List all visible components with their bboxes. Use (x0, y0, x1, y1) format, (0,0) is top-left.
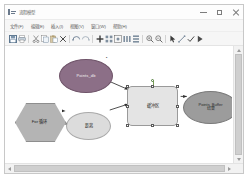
node-buffer-label: 缓冲区 (128, 104, 177, 109)
scroll-right-button[interactable] (225, 165, 234, 173)
distribute-v-button[interactable] (131, 33, 140, 44)
node-points-db[interactable]: Points_db (59, 59, 113, 93)
redo-button[interactable] (81, 33, 90, 44)
cut-button[interactable] (31, 33, 40, 44)
app-window: 流程模型 文件(F) 编辑(E) 插入(I) 视图(V) 窗口(W) 帮助(H) (4, 4, 244, 174)
node-points-buffer-label: Points_Buffer 结果 (184, 103, 233, 112)
flowchart-app-icon (8, 8, 16, 16)
diagram-canvas[interactable]: ▪ For 循环 Points_db 距离 缓冲区 (5, 46, 233, 163)
toolbar-separator-5 (165, 35, 166, 43)
delete-icon (59, 35, 67, 43)
align-grid-icon (105, 35, 113, 43)
close-icon (232, 9, 239, 16)
canvas-marker: ▪ (106, 55, 107, 60)
toolbar-separator-2 (69, 35, 70, 43)
distribute-h-button[interactable] (122, 33, 131, 44)
chevron-up-icon (237, 49, 241, 52)
node-distance-label: 距离 (67, 124, 110, 129)
run-icon (196, 35, 204, 43)
pointer-button[interactable] (168, 33, 177, 44)
undo-button[interactable] (72, 33, 81, 44)
add-node-button[interactable] (95, 33, 104, 44)
zoom-in-button[interactable] (145, 33, 154, 44)
resize-handle-bottom-right[interactable] (176, 124, 179, 127)
node-points-db-label: Points_db (60, 74, 112, 79)
connector-icon (178, 35, 186, 43)
minimize-icon (200, 9, 207, 16)
canvas-row: ▪ For 循环 Points_db 距离 缓冲区 (5, 46, 243, 163)
distribute-v-icon (132, 35, 140, 43)
resize-handle-middle-left[interactable] (126, 105, 129, 108)
minimize-button[interactable] (195, 5, 211, 19)
save-icon (9, 35, 17, 43)
node-points-buffer[interactable]: Points_Buffer 结果 (183, 91, 233, 124)
window-controls (195, 5, 243, 19)
menu-help[interactable]: 帮助(H) (112, 23, 128, 29)
menu-bar: 文件(F) 编辑(E) 插入(I) 视图(V) 窗口(W) 帮助(H) (5, 20, 243, 32)
menu-window[interactable]: 窗口(W) (90, 23, 107, 29)
save-button[interactable] (8, 33, 17, 44)
zoom-in-icon (146, 35, 154, 43)
print-button[interactable] (17, 33, 26, 44)
resize-handle-top-left[interactable] (126, 85, 129, 88)
menu-edit[interactable]: 编辑(E) (30, 23, 46, 29)
resize-handle-top-center[interactable] (151, 85, 154, 88)
validate-button[interactable] (186, 33, 195, 44)
menu-insert[interactable]: 插入(I) (50, 23, 64, 29)
vertical-scroll-thumb[interactable] (235, 54, 242, 155)
distribute-h-icon (123, 35, 131, 43)
scroll-down-button[interactable] (234, 155, 243, 163)
redo-icon (81, 35, 90, 43)
align-grid-button[interactable] (104, 33, 113, 44)
zoom-out-icon (155, 35, 163, 43)
undo-icon (72, 35, 81, 43)
menu-view[interactable]: 视图(V) (69, 23, 85, 29)
hexagon-shape (15, 103, 66, 142)
chevron-down-icon (237, 158, 241, 161)
resize-handle-middle-right[interactable] (176, 105, 179, 108)
zoom-out-button[interactable] (154, 33, 163, 44)
rotate-handle[interactable] (151, 79, 154, 82)
pointer-icon (169, 35, 177, 43)
layout-icon (114, 35, 122, 43)
cut-icon (32, 35, 40, 43)
paste-icon (50, 35, 58, 43)
horizontal-scroll-thumb[interactable] (14, 165, 225, 172)
scrollbar-corner (234, 164, 243, 173)
layout-button[interactable] (113, 33, 122, 44)
toolbar (5, 32, 243, 46)
paste-button[interactable] (49, 33, 58, 44)
close-button[interactable] (227, 5, 243, 19)
print-icon (18, 35, 26, 43)
horizontal-scrollbar[interactable] (5, 163, 243, 173)
resize-handle-bottom-left[interactable] (126, 124, 129, 127)
title-bar[interactable]: 流程模型 (5, 5, 243, 20)
scroll-up-button[interactable] (234, 46, 243, 54)
copy-button[interactable] (40, 33, 49, 44)
node-for-loop[interactable]: For 循环 (15, 103, 64, 140)
scroll-left-button[interactable] (5, 165, 14, 173)
toolbar-separator-4 (142, 35, 143, 43)
maximize-icon (216, 9, 223, 16)
document-area: ▪ For 循环 Points_db 距离 缓冲区 (5, 46, 243, 173)
maximize-button[interactable] (211, 5, 227, 19)
resize-handle-bottom-center[interactable] (151, 124, 154, 127)
chevron-right-icon (228, 167, 231, 171)
window-title: 流程模型 (19, 9, 35, 15)
menu-file[interactable]: 文件(F) (9, 23, 25, 29)
node-buffer[interactable]: 缓冲区 (127, 86, 178, 126)
toolbar-separator-3 (92, 35, 93, 43)
delete-button[interactable] (58, 33, 67, 44)
run-button[interactable] (195, 33, 204, 44)
copy-icon (41, 35, 49, 43)
vertical-scrollbar[interactable] (233, 46, 243, 163)
connector-button[interactable] (177, 33, 186, 44)
resize-handle-top-right[interactable] (176, 85, 179, 88)
toolbar-separator-1 (28, 35, 29, 43)
chevron-left-icon (8, 167, 11, 171)
add-node-icon (96, 35, 104, 43)
node-distance[interactable]: 距离 (66, 112, 111, 140)
validate-icon (187, 35, 195, 43)
